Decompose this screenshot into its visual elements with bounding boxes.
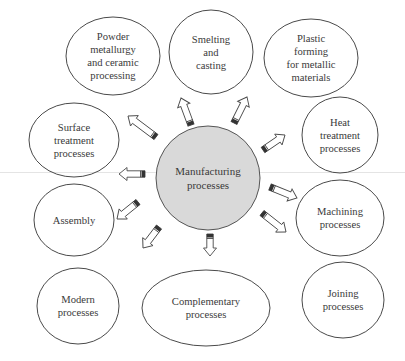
node-ellipse-complementary (142, 270, 270, 346)
node-ellipse-powder (66, 17, 160, 95)
arrow-icon-to-powder (124, 111, 160, 142)
node-ellipse-smelting (169, 10, 253, 94)
arrow-icon-to-heat (259, 130, 288, 156)
arrow-icon-to-plastic (228, 94, 253, 126)
arrow-icon-to-joining (258, 208, 290, 237)
node-ellipse-assembly (34, 184, 114, 256)
center-node-circle (156, 126, 260, 230)
node-ellipse-modern (37, 268, 119, 344)
arrow-icon-to-machining (268, 181, 300, 204)
node-ellipse-plastic (264, 19, 358, 97)
arrow-icon-to-modern (138, 223, 164, 252)
arrow-icon-to-assembly (113, 197, 142, 224)
arrow-icon-to-complementary (204, 234, 217, 256)
node-ellipse-heat (302, 97, 378, 173)
node-ellipse-joining (302, 262, 384, 338)
manufacturing-process-diagram (0, 0, 405, 361)
arrow-icon-to-smelting (175, 96, 197, 128)
node-ellipse-machining (296, 180, 384, 256)
arrow-icon-to-surface (119, 168, 145, 181)
node-ellipse-surface (29, 103, 119, 177)
